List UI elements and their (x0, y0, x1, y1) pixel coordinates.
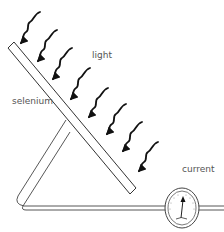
light-rays (21, 12, 158, 171)
light-ray-arrow-icon (123, 122, 142, 151)
photoelectric-diagram (0, 0, 224, 232)
current-meter-icon (165, 188, 199, 228)
light-ray-arrow-icon (38, 30, 57, 61)
light-label: light (92, 51, 112, 60)
light-ray-arrow-icon (89, 88, 108, 117)
current-label: current (182, 165, 214, 174)
light-ray-arrow-icon (139, 142, 158, 171)
selenium-label: selenium (12, 97, 53, 106)
light-ray-arrow-icon (53, 48, 72, 79)
light-ray-arrow-icon (107, 104, 126, 134)
selenium-plate (8, 42, 136, 194)
light-ray-arrow-icon (21, 12, 40, 43)
light-ray-arrow-icon (71, 68, 90, 99)
